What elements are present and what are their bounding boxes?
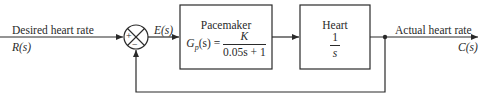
pacemaker-title: Pacemaker [180, 20, 272, 32]
input-label: Desired heart rate [12, 25, 94, 37]
pacemaker-denominator: 0.05s + 1 [223, 45, 266, 59]
error-signal-label: E(s) [154, 25, 173, 37]
pacemaker-transfer-function: Gp(s) = K 0.05s + 1 [180, 31, 272, 58]
heart-numerator: 1 [330, 32, 340, 46]
output-signal: C(s) [458, 42, 478, 54]
input-signal: R(s) [12, 42, 31, 54]
pacemaker-tf-arg: (s) = [199, 37, 221, 49]
pacemaker-numerator: K [223, 31, 266, 45]
minus-sign: − [132, 40, 138, 50]
heart-transfer-function: 1 s [300, 32, 370, 59]
pacemaker-tf-lhs: G [186, 37, 194, 49]
output-label: Actual heart rate [395, 25, 472, 37]
plus-sign: + [126, 31, 132, 41]
heart-title: Heart [300, 20, 370, 32]
heart-fraction: 1 s [330, 32, 340, 59]
heart-denominator: s [330, 46, 340, 60]
pacemaker-fraction: K 0.05s + 1 [223, 31, 266, 58]
